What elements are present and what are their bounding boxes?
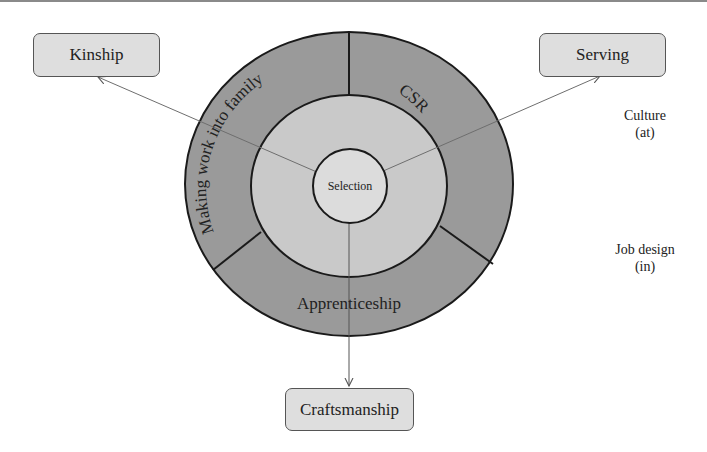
kinship-label: Kinship xyxy=(70,45,124,65)
kinship-box: Kinship xyxy=(33,33,160,77)
culture-at-label: Culture (at) xyxy=(605,107,685,141)
job-design-line: Job design xyxy=(595,241,695,258)
selection-label: Selection xyxy=(328,179,373,193)
in-line: (in) xyxy=(595,258,695,275)
job-design-in-label: Job design (in) xyxy=(595,241,695,275)
culture-line: Culture xyxy=(605,107,685,124)
segment-label-apprenticeship: Apprenticeship xyxy=(297,294,401,313)
serving-label: Serving xyxy=(576,45,629,65)
at-line: (at) xyxy=(605,124,685,141)
craftsmanship-label: Craftsmanship xyxy=(300,400,399,420)
serving-box: Serving xyxy=(539,33,666,77)
craftsmanship-box: Craftsmanship xyxy=(285,388,414,431)
